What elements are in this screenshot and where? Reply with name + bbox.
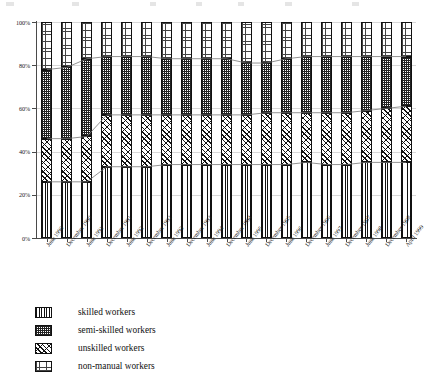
bar[interactable] [201, 22, 212, 238]
legend-item: unskilled workers [35, 339, 295, 357]
bar-segment [81, 59, 92, 137]
y-tick-label: 80% [2, 62, 30, 69]
bar-segment [281, 113, 292, 165]
x-axis-labels: June 1990December 1990June 1991December … [0, 238, 434, 300]
legend-item: skilled workers [35, 303, 295, 321]
bar-segment [61, 22, 72, 67]
bar-segment [281, 22, 292, 59]
bar[interactable] [401, 22, 412, 238]
bar[interactable] [41, 22, 52, 238]
bar[interactable] [161, 22, 172, 238]
bar[interactable] [281, 22, 292, 238]
bar-segment [201, 59, 212, 115]
bar[interactable] [181, 22, 192, 238]
y-tick-label: 20% [2, 191, 30, 198]
bar[interactable] [261, 22, 272, 238]
bar-segment [121, 57, 132, 115]
bar[interactable] [221, 22, 232, 238]
chart-legend: skilled workerssemi-skilled workersunski… [35, 303, 295, 375]
bar-segment [341, 113, 352, 165]
bar-segment [221, 22, 232, 59]
bar-segment [241, 115, 252, 165]
bar-segment [101, 57, 112, 115]
bar[interactable] [321, 22, 332, 238]
bar[interactable] [361, 22, 372, 238]
bar[interactable] [301, 22, 312, 238]
bar[interactable] [241, 22, 252, 238]
bar-segment [221, 59, 232, 115]
bar[interactable] [341, 22, 352, 238]
legend-label: skilled workers [78, 307, 135, 317]
bar-segment [101, 115, 112, 167]
bar-segment [61, 67, 72, 138]
bar[interactable] [101, 22, 112, 238]
bar-segment [261, 113, 272, 165]
bar-segment [161, 115, 172, 165]
legend-swatch [35, 325, 52, 336]
stacked-bar-chart: 0%20%40%60%80%100% June 1990December 199… [0, 0, 434, 300]
bar-segment [161, 22, 172, 59]
bar-segment [381, 162, 392, 238]
bar-segment [321, 113, 332, 165]
bar-segment [261, 22, 272, 63]
legend-swatch [35, 361, 52, 372]
legend-label: semi-skilled workers [78, 325, 156, 335]
bar[interactable] [81, 22, 92, 238]
bar-segment [281, 59, 292, 113]
legend-label: unskilled workers [78, 343, 144, 353]
bar-segment [201, 22, 212, 59]
plot-area [37, 22, 416, 238]
bar-segment [101, 22, 112, 57]
bar-segment [181, 115, 192, 165]
bar-segment [401, 106, 412, 162]
bar-segment [381, 108, 392, 162]
bar-segment [361, 22, 372, 57]
bar-segment [301, 162, 312, 238]
legend-label: non-manual workers [78, 361, 155, 371]
bar-segment [401, 22, 412, 57]
bar-segment [361, 57, 372, 111]
y-tick-label: 100% [2, 19, 30, 26]
bar-segment [301, 22, 312, 57]
bar-segment [261, 63, 272, 113]
y-tick-label: 60% [2, 105, 30, 112]
bar-segment [321, 57, 332, 113]
bar-segment [241, 63, 252, 115]
legend-item: non-manual workers [35, 357, 295, 375]
bar-segment [41, 139, 52, 182]
bar-segment [201, 115, 212, 165]
legend-swatch [35, 307, 52, 318]
bar[interactable] [121, 22, 132, 238]
y-tick-label: 40% [2, 148, 30, 155]
bar[interactable] [141, 22, 152, 238]
bar-segment [381, 22, 392, 57]
bar-segment [61, 139, 72, 182]
bar-segment [301, 57, 312, 113]
bar-segment [141, 115, 152, 167]
bar-segment [81, 22, 92, 59]
bar[interactable] [61, 22, 72, 238]
bar-segment [301, 113, 312, 163]
bar-segment [381, 57, 392, 109]
bar[interactable] [381, 22, 392, 238]
bar-segment [41, 70, 52, 139]
bar-segment [81, 136, 92, 181]
bar-segment [341, 22, 352, 57]
bar-segment [41, 22, 52, 70]
bar-segment [181, 59, 192, 115]
bar-segment [401, 57, 412, 107]
bar-segment [161, 59, 172, 115]
bar-segment [221, 115, 232, 165]
bar-segment [181, 22, 192, 59]
legend-swatch [35, 343, 52, 354]
bar-segment [241, 22, 252, 63]
bar-segment [321, 22, 332, 57]
bar-segment [141, 22, 152, 57]
bar-segment [121, 22, 132, 57]
bar-segment [41, 182, 52, 238]
bar-segment [341, 57, 352, 113]
bar-segment [121, 115, 132, 167]
bar-segment [361, 111, 372, 163]
legend-item: semi-skilled workers [35, 321, 295, 339]
bar-segment [141, 57, 152, 115]
